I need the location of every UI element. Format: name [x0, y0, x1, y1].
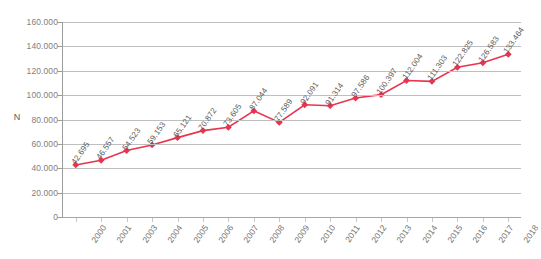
x-axis-tick: [76, 218, 77, 222]
y-tick-label: 160.000: [27, 17, 58, 27]
x-tick-label: 2015: [445, 223, 464, 245]
x-axis-tick: [127, 218, 128, 222]
x-tick-label: 2003: [140, 223, 159, 245]
x-axis-tick: [508, 218, 509, 222]
x-axis-tick: [101, 218, 102, 222]
x-tick-label: 2009: [293, 223, 312, 245]
y-tick-label: 80.000: [31, 115, 58, 125]
y-tick-label: 60.000: [31, 139, 58, 149]
y-tick-label: 120.000: [27, 66, 58, 76]
x-tick-label: 2018: [522, 223, 541, 245]
y-axis-tick: [57, 144, 62, 145]
x-axis-tick: [381, 218, 382, 222]
x-axis-tick: [457, 218, 458, 222]
gridline: [63, 46, 521, 47]
y-axis-tick: [57, 217, 62, 218]
x-tick-label: 2014: [420, 223, 439, 245]
gridline: [63, 217, 521, 218]
x-axis-tick: [228, 218, 229, 222]
gridline: [63, 71, 521, 72]
plot-area: [63, 22, 521, 217]
x-axis-tick: [279, 218, 280, 222]
x-tick-label: 2001: [114, 223, 133, 245]
x-axis-tick: [330, 218, 331, 222]
y-axis-tick: [57, 71, 62, 72]
x-axis-tick: [432, 218, 433, 222]
x-tick-label: 2016: [471, 223, 490, 245]
x-axis-tick: [305, 218, 306, 222]
x-tick-label: 2017: [496, 223, 515, 245]
x-tick-label: 2005: [191, 223, 210, 245]
x-axis-tick: [203, 218, 204, 222]
x-axis-tick: [483, 218, 484, 222]
y-tick-label: 140.000: [27, 41, 58, 51]
y-tick-label: 40.000: [31, 163, 58, 173]
x-tick-label: 2011: [343, 223, 362, 244]
y-axis-tick: [57, 120, 62, 121]
y-axis-tick: [57, 46, 62, 47]
y-axis-tick: [57, 95, 62, 96]
y-tick-label: 20.000: [31, 188, 58, 198]
x-tick-label: 2012: [369, 223, 388, 245]
x-tick-label: 2004: [165, 223, 184, 245]
x-tick-label: 2000: [89, 223, 108, 245]
gridline: [63, 95, 521, 96]
x-axis-tick: [254, 218, 255, 222]
x-tick-label: 2007: [242, 223, 261, 245]
y-axis-tick-labels: 020.00040.00060.00080.000100.000120.0001…: [0, 0, 62, 259]
x-axis-tick: [407, 218, 408, 222]
gridline: [63, 193, 521, 194]
x-tick-label: 2006: [216, 223, 235, 245]
y-axis-tick: [57, 22, 62, 23]
y-tick-label: 100.000: [27, 90, 58, 100]
x-axis-tick: [356, 218, 357, 222]
x-axis-tick: [152, 218, 153, 222]
y-axis-tick: [57, 193, 62, 194]
x-tick-label: 2008: [267, 223, 286, 245]
x-tick-label: 2010: [318, 223, 337, 245]
y-axis-tick: [57, 168, 62, 169]
gridline: [63, 120, 521, 121]
gridline: [63, 168, 521, 169]
x-axis-tick: [178, 218, 179, 222]
x-tick-label: 2013: [394, 223, 413, 245]
gridline: [63, 22, 521, 23]
